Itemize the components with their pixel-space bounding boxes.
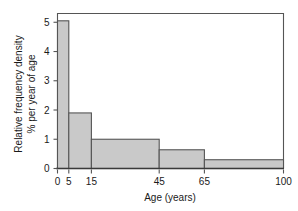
y-axis-title-line1: Relative frequency density [13,35,24,152]
y-tick-label: 3 [44,75,50,86]
histogram-bar [204,160,283,169]
y-tick-label: 4 [44,46,50,57]
y-axis-title-line2: % per year of age [26,54,37,133]
histogram-bar [58,21,69,169]
y-tick-label: 0 [44,163,50,174]
x-tick-label: 5 [66,176,72,187]
x-tick-label: 65 [199,176,211,187]
histogram-bar [69,113,92,169]
x-tick-label: 15 [86,176,98,187]
y-tick-label: 5 [44,17,50,28]
chart-canvas: 012345 05154565100 Age (years) Relative … [0,0,298,211]
histogram-bar [91,139,159,168]
y-tick-label: 1 [44,134,50,145]
histogram-bar [159,150,204,169]
y-tick-label: 2 [44,105,50,116]
x-tick-label: 45 [154,176,166,187]
x-tick-label: 100 [275,176,292,187]
x-axis-title: Age (years) [144,192,196,203]
histogram-chart: 012345 05154565100 Age (years) Relative … [0,0,298,211]
x-tick-label: 0 [55,176,61,187]
